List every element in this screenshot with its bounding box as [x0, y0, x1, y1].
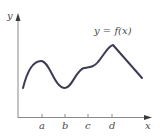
function-graph: y x y = f(x) a b c d	[0, 0, 165, 137]
function-curve	[23, 45, 142, 88]
x-axis-label: x	[145, 120, 151, 131]
tick-label-c: c	[85, 120, 91, 131]
function-label: y = f(x)	[93, 25, 132, 36]
y-axis-arrow-icon	[16, 13, 21, 21]
y-axis-label: y	[6, 10, 13, 21]
tick-label-a: a	[39, 120, 45, 131]
tick-label-d: d	[109, 120, 115, 131]
tick-label-b: b	[62, 120, 68, 131]
